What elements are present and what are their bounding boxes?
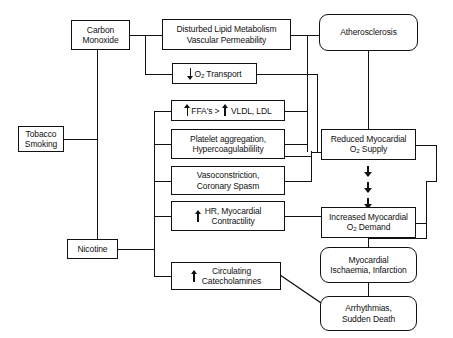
carbon-monoxide-line1: Carbon <box>87 25 114 35</box>
hr-line1: HR, Myocardial <box>205 206 262 216</box>
node-circulating-catecholamines[interactable]: Circulating Catecholamines <box>171 262 281 290</box>
edge-o2transport-right-stub <box>257 74 318 75</box>
edge-supply-right-stub <box>416 145 437 146</box>
platelet-line2: Hypercoagulabilility <box>190 144 266 154</box>
atherosclerosis-label: Atherosclerosis <box>340 27 397 37</box>
edge-nicotine-to-ffa <box>154 111 171 112</box>
edge-trunk-vertical <box>97 50 98 239</box>
node-arrhythmias-sudden-death[interactable]: Arrhythmias, Sudden Death <box>320 296 417 331</box>
platelet-line1: Platelet aggregation, <box>190 134 266 144</box>
node-tobacco-smoking[interactable]: Tobacco Smoking <box>18 126 64 152</box>
arrhythmias-line2: Sudden Death <box>342 314 395 324</box>
node-disturbed-lipid-metabolism[interactable]: Disturbed Lipid Metabolism Vascular Perm… <box>162 19 291 50</box>
lipid-line1: Disturbed Lipid Metabolism <box>177 24 277 34</box>
arrow-supply-to-demand-1 <box>364 166 372 177</box>
edge-vasoconstriction-vertical <box>311 151 312 181</box>
edge-ischaemia-to-arrhythmias <box>368 283 369 296</box>
node-vasoconstriction[interactable]: Vasoconstriction, Coronary Spasm <box>171 166 285 195</box>
flowchart-canvas: Tobacco Smoking Carbon Monoxide Nicotine… <box>0 0 453 338</box>
catecholamines-line1: Circulating <box>212 266 251 276</box>
ischaemia-line1: Myocardial <box>348 255 388 265</box>
o2-transport-suffix: Transport <box>204 69 241 79</box>
edge-platelet-right-stub <box>285 144 307 145</box>
edge-co-to-lipid <box>145 35 162 36</box>
edge-platelet-to-supply-stub <box>285 156 311 157</box>
tobacco-smoking-line1: Tobacco <box>26 129 57 139</box>
edge-co-right-stub <box>130 35 146 36</box>
edge-right-mid-horizontal <box>426 181 437 182</box>
up-arrow-icon <box>195 210 201 223</box>
edge-tobacco-to-trunk <box>64 139 97 140</box>
arrhythmias-line1: Arrhythmias, <box>345 303 392 313</box>
node-atherosclerosis[interactable]: Atherosclerosis <box>319 14 418 51</box>
reduced-supply-line1: Reduced Myocardial <box>331 134 407 144</box>
node-nicotine[interactable]: Nicotine <box>67 239 118 259</box>
edge-down-into-ischaemia <box>368 238 369 248</box>
edge-nicotine-right-stub <box>118 249 155 250</box>
up-arrow-icon <box>191 270 197 283</box>
increased-demand-line2-suffix: Demand <box>357 222 391 232</box>
node-platelet-aggregation[interactable]: Platelet aggregation, Hypercoagulabilili… <box>171 129 285 159</box>
edge-vasoconstriction-right-stub <box>285 181 312 182</box>
edge-supply-outer-vertical <box>436 145 437 181</box>
down-arrow-icon <box>187 67 193 80</box>
edge-bus-to-reduced-supply <box>311 152 321 153</box>
reduced-supply-line2-suffix: Supply <box>360 144 388 154</box>
node-increased-myocardial-o2-demand[interactable]: Increased Myocardial O2 Demand <box>321 207 416 238</box>
tobacco-smoking-line2: Smoking <box>25 139 57 149</box>
edge-right-inner-vertical <box>426 181 427 239</box>
edge-nicotine-to-catecholamines <box>154 276 171 277</box>
edge-atherosclerosis-to-supply <box>368 51 369 136</box>
ffa-suffix: VLDL, LDL <box>229 106 272 116</box>
up-arrow-icon-2 <box>222 104 228 117</box>
ischaemia-line2: Ischaemia, Infarction <box>330 265 406 275</box>
edge-lipid-right-stub <box>291 35 308 36</box>
lipid-line2: Vascular Permeability <box>177 35 277 45</box>
catecholamines-line2: Catecholamines <box>202 276 262 286</box>
edge-nicotine-to-hr <box>154 216 171 217</box>
edge-athero-bus-vertical <box>307 35 308 152</box>
edge-co-branch-vertical <box>145 35 146 75</box>
ffa-prefix: FFA's > <box>191 106 221 116</box>
edge-nicotine-to-platelet <box>154 144 171 145</box>
carbon-monoxide-line2: Monoxide <box>82 35 118 45</box>
edge-co-to-o2transport <box>145 74 172 75</box>
arrow-supply-to-demand-2 <box>364 182 372 193</box>
node-o2-transport[interactable]: O2 Transport <box>172 63 257 84</box>
edge-ffa-right-stub <box>285 111 307 112</box>
node-ffa-vldl-ldl[interactable]: FFA's > VLDL, LDL <box>171 100 285 121</box>
vasoconstriction-line1: Vasoconstriction, <box>197 170 259 180</box>
node-carbon-monoxide[interactable]: Carbon Monoxide <box>71 20 130 50</box>
edge-hr-to-demand <box>285 216 321 217</box>
hr-line2: Contractility <box>205 216 262 226</box>
node-myocardial-ischaemia-infarction[interactable]: Myocardial Ischaemia, Infarction <box>320 247 417 283</box>
edge-nicotine-to-vasoconstriction <box>154 181 171 182</box>
vasoconstriction-line2: Coronary Spasm <box>197 181 259 191</box>
node-hr-myocardial-contractility[interactable]: HR, Myocardial Contractility <box>171 201 285 231</box>
nicotine-label: Nicotine <box>78 244 108 254</box>
edge-o2transport-vertical <box>317 74 318 152</box>
node-reduced-myocardial-o2-supply[interactable]: Reduced Myocardial O2 Supply <box>321 129 416 160</box>
edge-bus-to-atherosclerosis <box>307 35 319 36</box>
up-arrow-icon <box>184 104 190 117</box>
edge-nicotine-branch-bus <box>154 111 155 276</box>
increased-demand-line1: Increased Myocardial <box>329 212 408 222</box>
